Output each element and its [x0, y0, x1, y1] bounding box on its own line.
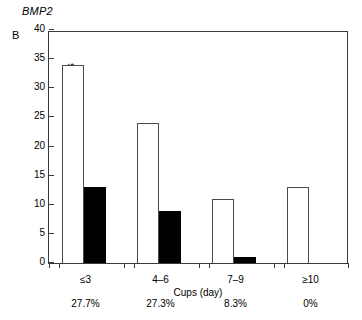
- y-tick: 40: [49, 29, 54, 30]
- bar-open: [287, 187, 309, 263]
- y-tick: 10: [49, 204, 54, 205]
- x-group-percent: 8.3%: [206, 298, 266, 309]
- y-tick: 30: [49, 87, 54, 88]
- y-tick: 20: [49, 146, 54, 147]
- y-tick: 25: [49, 116, 54, 117]
- x-tick-minor: [134, 263, 135, 268]
- chart-gene-title: BMP2: [22, 5, 53, 17]
- x-tick: [348, 263, 349, 268]
- x-tick-minor: [59, 263, 60, 268]
- x-tick: [199, 263, 200, 268]
- x-group-label: 7–9: [206, 274, 266, 285]
- bar-open: [137, 123, 159, 263]
- y-tick-label: 15: [23, 169, 45, 180]
- plot-area: No. of patients 0510152025303540: [48, 31, 348, 264]
- bar-open: [62, 65, 84, 263]
- bar-filled: [159, 211, 181, 263]
- y-tick-label: 5: [23, 227, 45, 238]
- y-tick-label: 40: [23, 23, 45, 34]
- x-tick-minor: [284, 263, 285, 268]
- x-tick: [124, 263, 125, 268]
- y-tick: 15: [49, 175, 54, 176]
- y-tick-label: 10: [23, 198, 45, 209]
- x-group-percent: 27.7%: [56, 298, 116, 309]
- x-group-percent: 0%: [281, 298, 341, 309]
- x-group-label: ≤3: [56, 274, 116, 285]
- x-tick-minor: [209, 263, 210, 268]
- bar-open: [212, 199, 234, 263]
- bar-filled: [84, 187, 106, 263]
- x-group-label: ≥10: [281, 274, 341, 285]
- chart-panel-label: B: [12, 29, 19, 41]
- y-tick-label: 0: [23, 256, 45, 267]
- y-tick-label: 20: [23, 140, 45, 151]
- x-group-percent: 27.3%: [131, 298, 191, 309]
- x-axis-title: Cups (day): [48, 287, 348, 298]
- x-tick: [274, 263, 275, 268]
- x-tick: [49, 263, 50, 268]
- y-tick-label: 30: [23, 81, 45, 92]
- y-tick: 35: [49, 58, 54, 59]
- y-tick-label: 35: [23, 52, 45, 63]
- chart-figure: BMP2 B No. of patients 0510152025303540 …: [0, 0, 362, 320]
- y-tick-label: 25: [23, 110, 45, 121]
- x-group-label: 4–6: [131, 274, 191, 285]
- y-tick: 5: [49, 233, 54, 234]
- bar-filled: [234, 257, 256, 263]
